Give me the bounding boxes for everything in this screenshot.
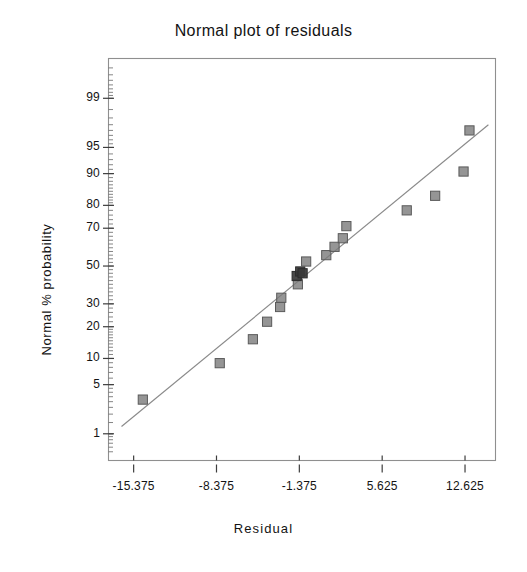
data-point-marker	[215, 359, 224, 368]
x-tick-label: -1.375	[254, 479, 344, 493]
x-tick-label: 12.625	[420, 479, 510, 493]
y-tick-label: 80	[60, 197, 100, 211]
data-point-marker	[342, 222, 351, 231]
chart-figure: Normal plot of residuals Normal % probab…	[0, 0, 527, 572]
data-point-marker	[338, 234, 347, 243]
x-tick-label: -15.375	[89, 479, 179, 493]
data-point-marker	[276, 302, 285, 311]
data-point-marker	[138, 395, 147, 404]
x-tick-label: -8.375	[171, 479, 261, 493]
x-tick-label: 5.625	[337, 479, 427, 493]
y-tick-label: 1	[60, 426, 100, 440]
y-tick-label: 99	[60, 90, 100, 104]
data-point-marker	[248, 335, 257, 344]
y-tick-label: 95	[60, 139, 100, 153]
y-tick-label: 30	[60, 296, 100, 310]
y-tick-label: 90	[60, 166, 100, 180]
y-tick-label: 10	[60, 350, 100, 364]
data-point-marker	[431, 191, 440, 200]
data-point-marker	[277, 293, 286, 302]
data-point-marker	[402, 206, 411, 215]
data-point-marker	[459, 167, 468, 176]
y-tick-label: 20	[60, 319, 100, 333]
data-point-marker	[298, 269, 307, 278]
y-tick-label: 50	[60, 258, 100, 272]
y-tick-label: 5	[60, 377, 100, 391]
data-point-marker	[330, 242, 339, 251]
y-tick-label: 70	[60, 220, 100, 234]
data-point-marker	[262, 317, 271, 326]
data-point-marker	[465, 126, 474, 135]
data-point-marker	[302, 257, 311, 266]
